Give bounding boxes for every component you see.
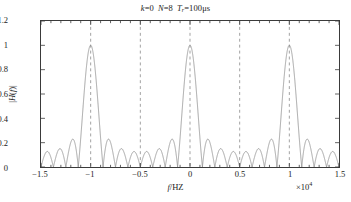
y-axis-bar-right: | <box>7 85 17 87</box>
x-tick-label: −1.5 <box>20 170 60 179</box>
title-t-val: =100μs <box>184 3 210 13</box>
y-tick-label: 0 <box>0 164 8 173</box>
y-axis-bar-left: | <box>7 101 17 103</box>
y-axis-h: H <box>7 95 17 101</box>
y-axis-paren-close: ) <box>7 87 17 90</box>
x-tick-label: 1 <box>270 170 310 179</box>
x-tick-label: −0.5 <box>120 170 160 179</box>
figure-container: k=0N=8Tr=100μs |H(f)| 00.20.40.60.811.2 … <box>0 0 351 202</box>
y-axis-title: |H(f)| <box>7 85 17 103</box>
x-tick-label: 1.5 <box>320 170 351 179</box>
plot-area <box>40 20 340 168</box>
y-tick-label: 1.2 <box>0 16 8 25</box>
title-k-val: =0 <box>145 3 154 13</box>
x-axis-unit: /HZ <box>170 182 184 192</box>
x-axis-exponent-multiplier: ×104 <box>296 181 312 192</box>
y-tick-label: 0.2 <box>0 139 8 148</box>
x-tick-label: −1 <box>70 170 110 179</box>
y-tick-label: 0.8 <box>0 65 8 74</box>
x-tick-label: 0.5 <box>220 170 260 179</box>
multiplier-exponent: 4 <box>309 181 312 187</box>
y-axis-paren-open: ( <box>7 92 17 95</box>
y-tick-label: 1 <box>0 40 8 49</box>
chart-title: k=0N=8Tr=100μs <box>0 3 351 13</box>
axis-ticks <box>41 21 339 167</box>
x-tick-label: 0 <box>170 170 210 179</box>
y-axis-f: f <box>7 90 17 92</box>
y-tick-label: 0.6 <box>0 90 8 99</box>
y-tick-label: 0.4 <box>0 114 8 123</box>
title-n-val: =8 <box>164 3 173 13</box>
multiplier-base: ×10 <box>296 182 309 192</box>
